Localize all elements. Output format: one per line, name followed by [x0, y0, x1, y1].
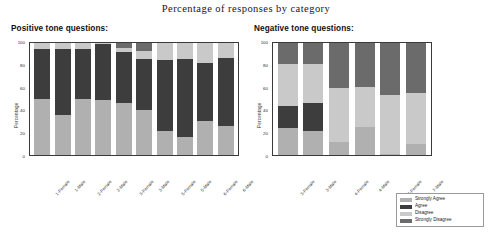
x-axis-labels-positive: 1-Female1-Male2-Female2-Male3-Female3-Ma… — [29, 156, 239, 170]
y-axis-ticks-positive: 100806040200 — [11, 40, 25, 170]
y-tick: 60 — [263, 85, 268, 90]
chart-legend: Strongly AgreeAgreeDisagreeStrongly Disa… — [396, 193, 484, 227]
y-tick: 20 — [263, 131, 268, 136]
y-tick: 80 — [263, 62, 268, 67]
x-tick-label: 5-Male — [199, 179, 212, 193]
bar-segment — [278, 64, 298, 105]
bar-segment — [157, 131, 173, 155]
bar-segment — [75, 49, 91, 99]
x-tick-label: 2-Male — [115, 179, 128, 193]
bar-segment — [218, 43, 234, 58]
bar-segment — [34, 49, 50, 99]
stacked-bar — [303, 43, 323, 155]
bar-segment — [218, 58, 234, 126]
chart-page: Percentage of responses by category Posi… — [0, 0, 492, 245]
y-tick: 20 — [20, 131, 25, 136]
x-tick-label: 3-Female — [300, 179, 316, 196]
bar-segment — [406, 93, 426, 143]
x-tick-label: 2-Female — [96, 179, 112, 196]
stacked-bar — [75, 43, 91, 155]
legend-swatch — [400, 219, 412, 223]
y-tick: 40 — [20, 108, 25, 113]
bar-segment — [278, 43, 298, 64]
legend-swatch — [400, 198, 412, 202]
bar-segment — [136, 43, 152, 51]
bar-segment — [303, 64, 323, 103]
y-axis-ticks-negative: 100806040200 — [254, 40, 268, 170]
bar-segment — [329, 43, 349, 88]
legend-item: Disagree — [400, 210, 480, 217]
y-tick: 100 — [261, 40, 268, 45]
plot-area-positive — [29, 42, 239, 156]
bar-segment — [55, 49, 71, 115]
bar-segment — [355, 87, 375, 127]
y-tick: 0 — [23, 154, 25, 159]
negative-panel-heading: Negative tone questions: — [254, 24, 354, 33]
stacked-bar — [136, 43, 152, 155]
x-tick-label: 4-Female — [353, 179, 369, 196]
stacked-bar — [278, 43, 298, 155]
bar-segment — [116, 52, 132, 104]
x-tick-label: 1-Female — [54, 179, 70, 196]
y-tick: 100 — [18, 40, 25, 45]
stacked-bar — [55, 43, 71, 155]
x-tick-label: 1-Male — [73, 179, 86, 193]
bar-segment — [157, 43, 173, 60]
bar-segment — [75, 99, 91, 155]
y-tick: 0 — [266, 154, 268, 159]
legend-label: Strongly Agree — [415, 197, 445, 202]
positive-tone-chart: Percentage 100806040200 1-Female1-Male2-… — [11, 40, 241, 170]
x-tick-label: 7-Male — [431, 179, 444, 193]
bar-segment — [380, 154, 400, 155]
x-tick-label: 4-Male — [378, 179, 391, 193]
bar-segment — [177, 137, 193, 155]
legend-label: Strongly Disagree — [415, 218, 452, 223]
legend-label: Disagree — [415, 211, 433, 216]
stacked-bar — [329, 43, 349, 155]
legend-item: Strongly Agree — [400, 196, 480, 203]
bar-segment — [34, 99, 50, 155]
stacked-bar — [218, 43, 234, 155]
bar-segment — [406, 43, 426, 93]
bar-segment — [136, 110, 152, 155]
negative-tone-chart: Percentage 100806040200 3-Female3-Male4-… — [254, 40, 434, 170]
page-title: Percentage of responses by category — [0, 3, 492, 14]
x-tick-label: 3-Male — [325, 179, 338, 193]
bar-segment — [406, 144, 426, 155]
plot-area-negative — [272, 42, 432, 156]
legend-label: Agree — [415, 204, 427, 209]
x-tick-label: 3-Male — [157, 179, 170, 193]
legend-swatch — [400, 212, 412, 216]
bar-segment — [303, 131, 323, 155]
bar-segment — [197, 63, 213, 121]
y-tick: 80 — [20, 62, 25, 67]
bar-segment — [380, 43, 400, 95]
legend-item: Agree — [400, 203, 480, 210]
x-tick-label: 5-Female — [180, 179, 196, 196]
bar-segment — [197, 121, 213, 155]
stacked-bar — [197, 43, 213, 155]
bar-segment — [197, 43, 213, 63]
bar-segment — [136, 59, 152, 111]
bar-segment — [177, 59, 193, 137]
bar-segment — [218, 126, 234, 155]
bar-segment — [55, 115, 71, 155]
bar-segment — [380, 95, 400, 154]
stacked-bar — [34, 43, 50, 155]
stacked-bar — [95, 43, 111, 155]
bar-segment — [116, 103, 132, 155]
x-tick-label: 3-Female — [138, 179, 154, 196]
stacked-bar — [157, 43, 173, 155]
bar-segment — [329, 88, 349, 142]
stacked-bar — [380, 43, 400, 155]
legend-swatch — [400, 205, 412, 209]
y-tick: 40 — [263, 108, 268, 113]
legend-item: Strongly Disagree — [400, 217, 480, 224]
bar-segment — [329, 142, 349, 155]
stacked-bar — [355, 43, 375, 155]
x-tick-label: 6-Female — [222, 179, 238, 196]
bar-segment — [95, 44, 111, 100]
bar-segment — [355, 43, 375, 87]
stacked-bar — [177, 43, 193, 155]
bar-segment — [303, 43, 323, 64]
